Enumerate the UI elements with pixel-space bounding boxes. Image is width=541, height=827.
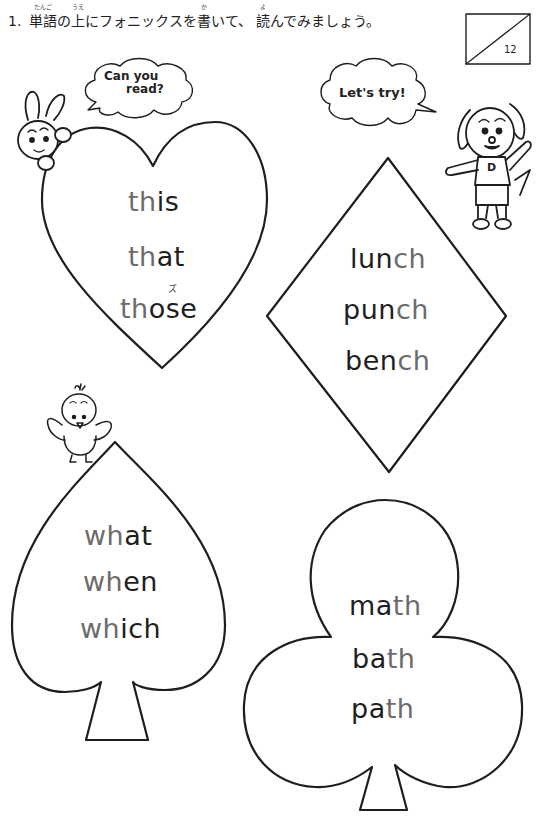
- spade-word-1: what: [84, 520, 152, 551]
- heart-word-2: that: [128, 241, 185, 272]
- bubble-rabbit-line2: read?: [104, 83, 164, 96]
- score-box: [466, 14, 530, 64]
- club-word-2: bath: [352, 643, 415, 674]
- dog-shirt-letter: D: [487, 161, 496, 174]
- club-word-1: math: [349, 590, 422, 621]
- heart-word-1: this: [128, 186, 179, 217]
- worksheet-drawings: [0, 0, 541, 827]
- bubble-dog-text: Let's try!: [339, 86, 406, 99]
- club-word-3: path: [351, 693, 414, 724]
- diamond-word-3: bench: [345, 345, 430, 376]
- score-total: 12: [504, 44, 517, 55]
- diamond-word-1: lunch: [350, 243, 426, 274]
- rabbit-illustration: [18, 92, 71, 170]
- spade-word-3: which: [80, 613, 161, 644]
- chick-illustration: [48, 384, 112, 462]
- spade-word-2: when: [83, 566, 158, 597]
- heart-word-3: those: [120, 293, 197, 324]
- diamond-word-2: punch: [343, 294, 429, 325]
- bubble-rabbit-text: Can you read?: [104, 70, 164, 96]
